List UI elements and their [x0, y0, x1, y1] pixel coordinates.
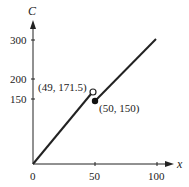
x-axis-label: x: [176, 157, 183, 171]
y-axis-arrow-icon: [30, 20, 36, 29]
filled-circle-marker: [92, 98, 98, 104]
annotation-filled-point: (50, 150): [99, 102, 140, 115]
y-axis: C 300 200 150: [10, 4, 37, 164]
y-tick-label-300: 300: [10, 34, 27, 46]
x-tick-label-100: 100: [148, 170, 165, 182]
x-axis-arrow-icon: [165, 161, 174, 167]
annotation-open-point: (49, 171.5): [38, 81, 87, 94]
x-tick-label-0: 0: [30, 170, 36, 182]
y-tick-label-200: 200: [10, 73, 27, 85]
x-axis: x 0 50 100: [30, 157, 183, 182]
y-tick-label-150: 150: [10, 93, 27, 105]
x-tick-label-50: 50: [89, 170, 101, 182]
line-segment-1: [33, 94, 91, 164]
piecewise-cost-chart: C 300 200 150 x 0 50 100 (49, 17: [0, 0, 189, 187]
open-circle-marker: [90, 89, 96, 95]
line-segment-2: [95, 39, 156, 101]
y-axis-label: C: [28, 4, 37, 18]
